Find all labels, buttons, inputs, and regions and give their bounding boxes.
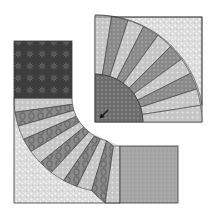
dark-star-square (14, 41, 72, 98)
gray-square (120, 146, 178, 203)
quilt-figure (0, 0, 212, 219)
fan-block (95, 15, 202, 122)
